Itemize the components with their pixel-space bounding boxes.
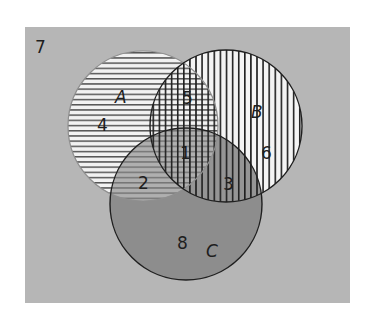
region-label-5: 5	[182, 88, 193, 108]
venn-diagram: 7 4 5 1 6 2 3 8 A B C	[0, 0, 373, 323]
region-label-1: 1	[180, 143, 191, 163]
region-label-3: 3	[223, 174, 234, 194]
region-label-6: 6	[261, 143, 272, 163]
region-label-2: 2	[138, 173, 149, 193]
set-label-b: B	[251, 102, 263, 122]
set-label-a: A	[114, 87, 127, 107]
region-label-4: 4	[97, 115, 108, 135]
region-label-7: 7	[35, 37, 46, 57]
region-label-8: 8	[177, 233, 188, 253]
set-label-c: C	[206, 241, 218, 261]
